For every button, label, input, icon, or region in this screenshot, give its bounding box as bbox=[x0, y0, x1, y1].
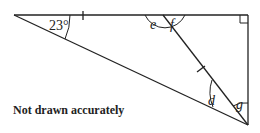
not-drawn-accurately-note: Not drawn accurately bbox=[13, 103, 124, 118]
angle-label-e: e bbox=[150, 17, 156, 32]
equal-tick-diagonal bbox=[197, 66, 205, 72]
right-angle-marker bbox=[240, 15, 248, 23]
geometry-diagram: 23° e f d g Not drawn accurately bbox=[0, 0, 260, 133]
angle-label-g: g bbox=[236, 97, 243, 112]
angle-label-d: d bbox=[208, 93, 216, 108]
angle-label-23: 23° bbox=[49, 18, 69, 33]
